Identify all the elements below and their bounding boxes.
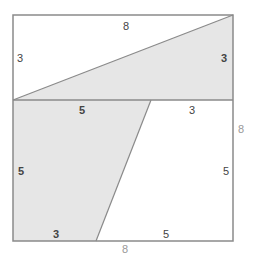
shaded-lower-trapezoid xyxy=(13,100,151,241)
label-outer-bottom-width: 8 xyxy=(122,243,128,255)
label-lower-right-height: 5 xyxy=(223,165,229,177)
label-top-left-height: 3 xyxy=(17,52,23,64)
label-mid-right-segment: 3 xyxy=(189,104,195,116)
label-bottom-right-segment: 5 xyxy=(163,228,169,240)
label-triangle-right-height: 3 xyxy=(221,52,227,64)
label-lower-left-height: 5 xyxy=(18,165,24,177)
label-top-width: 8 xyxy=(123,20,129,32)
label-mid-left-segment: 5 xyxy=(79,104,85,116)
label-outer-right-height: 8 xyxy=(238,123,244,135)
dissection-diagram: 8 3 3 5 3 8 5 5 3 5 8 xyxy=(0,0,253,265)
label-bottom-left-segment: 3 xyxy=(53,228,59,240)
